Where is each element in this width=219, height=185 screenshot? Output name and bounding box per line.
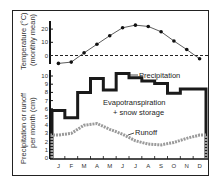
precipitation-annotation: Precipitation xyxy=(139,71,180,80)
flow-tick-label: 0 xyxy=(45,155,49,161)
month-x-axis: JFMAMJJASOND xyxy=(50,156,208,169)
month-label: J xyxy=(121,163,124,169)
temperature-point xyxy=(198,57,202,61)
flow-ylabel-line2: per month (cm) xyxy=(28,97,37,148)
temp-tick-label: 20 xyxy=(41,26,48,32)
runoff-annotation: Runoff xyxy=(135,128,158,137)
temp-tick-label: 10 xyxy=(41,39,48,45)
flow-tick-label: 7 xyxy=(45,98,49,104)
flow-tick-label: 3 xyxy=(45,130,49,136)
runoff-series xyxy=(52,124,206,158)
temperature-series xyxy=(57,23,202,65)
flow-tick-label: 9 xyxy=(45,81,49,87)
month-label: J xyxy=(134,163,137,169)
flow-tick-label: 2 xyxy=(45,139,49,145)
month-label: S xyxy=(159,163,163,169)
temperature-point xyxy=(108,34,112,38)
flow-tick-label: 4 xyxy=(45,122,49,128)
temperature-point xyxy=(95,42,99,46)
month-label: J xyxy=(57,163,60,169)
flow-tick-label: 1 xyxy=(45,147,49,153)
temperature-point xyxy=(69,60,73,64)
temp-ylabel-line2: (monthly mean) xyxy=(28,13,37,66)
temperature-point xyxy=(82,51,86,55)
flow-tick-label: 5 xyxy=(45,114,49,120)
evapotranspiration-annotation: Evapotranspiration xyxy=(103,98,166,107)
temperature-point xyxy=(185,48,189,52)
snow-storage-annotation: + snow storage xyxy=(113,108,164,117)
climate-chart: Temperature (°C) (monthly mean) Precipit… xyxy=(0,0,219,185)
month-label: D xyxy=(197,163,202,169)
temperature-point xyxy=(159,30,163,34)
flow-tick-label: 8 xyxy=(45,89,49,95)
temp-ylabel-line1: Temperature (°C) xyxy=(19,12,28,70)
month-label: O xyxy=(172,163,177,169)
month-label: A xyxy=(146,163,150,169)
temperature-y-axis: 01020 xyxy=(41,21,53,64)
flow-tick-label: 10 xyxy=(41,73,48,79)
month-label: M xyxy=(82,163,87,169)
temperature-point xyxy=(146,25,150,29)
runoff-pointer xyxy=(128,133,134,135)
month-label: F xyxy=(69,163,73,169)
temperature-point xyxy=(134,23,138,27)
flow-tick-label: 6 xyxy=(45,106,49,112)
month-label: A xyxy=(95,163,99,169)
flow-ylabel-line1: Precipitation or runoff xyxy=(19,92,28,164)
temperature-point xyxy=(57,62,61,66)
month-label: N xyxy=(185,163,189,169)
temperature-point xyxy=(172,39,176,43)
month-label: M xyxy=(107,163,112,169)
temperature-point xyxy=(121,26,125,30)
temp-tick-label: 0 xyxy=(45,53,49,59)
